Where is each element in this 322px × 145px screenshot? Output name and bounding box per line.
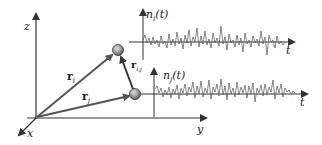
noise-i-t-label: t [286, 44, 291, 57]
y-axis-label: y [196, 123, 204, 136]
noise-i-trace [143, 26, 285, 55]
noise-plot-i: ni(t) t [129, 8, 294, 60]
x-axis-label: x [27, 127, 34, 140]
noise-j-label: nj(t) [163, 69, 185, 84]
noise-i-label: ni(t) [146, 8, 168, 23]
vector-r-i-label: ri [67, 70, 75, 85]
particle-i [113, 45, 124, 56]
particle-noise-diagram: z y x ri rj ri,j ni(t) t [0, 0, 322, 145]
noise-plot-j: nj(t) t [141, 69, 307, 117]
z-axis-label: z [23, 20, 30, 33]
noise-j-trace [155, 79, 295, 102]
noise-j-t-label: t [300, 96, 305, 109]
vector-r-ij-label: ri,j [131, 59, 142, 73]
vector-r-j-label: rj [82, 90, 91, 105]
vectors: ri rj ri,j [37, 55, 142, 117]
particle-j [130, 89, 141, 100]
